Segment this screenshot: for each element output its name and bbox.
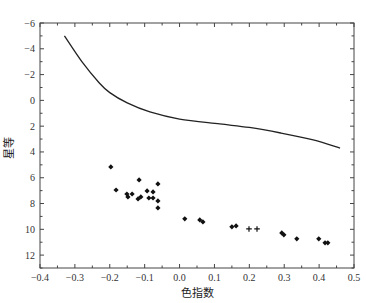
y-tick-label: 12 — [25, 250, 35, 261]
y-tick-label: 8 — [30, 198, 35, 209]
plot-frame — [40, 23, 354, 268]
star-point — [155, 205, 160, 210]
x-tick-label: 0.4 — [313, 272, 326, 283]
star-point — [108, 164, 113, 169]
y-axis-title: 星等 — [2, 137, 16, 159]
y-tick-label: 2 — [30, 121, 35, 132]
x-axis: −0.4−0.3−0.2−0.10.00.10.20.30.40.5 — [31, 23, 360, 283]
x-tick-label: −0.1 — [136, 272, 154, 283]
y-tick-label: −6 — [24, 18, 35, 29]
x-axis-title: 色指数 — [181, 286, 214, 300]
y-tick-label: 0 — [30, 95, 35, 106]
y-tick-label: 10 — [25, 224, 35, 235]
y-axis: −6−4−2024681012 — [24, 18, 354, 269]
star-point — [150, 195, 155, 200]
star-point — [325, 240, 330, 245]
chart: −0.4−0.3−0.2−0.10.00.10.20.30.40.5 −6−4−… — [0, 0, 366, 303]
y-tick-label: 4 — [30, 146, 35, 157]
star-point — [229, 224, 234, 229]
star-point — [145, 188, 150, 193]
x-tick-label: 0.0 — [173, 272, 186, 283]
plot-area — [40, 23, 354, 268]
star-point — [113, 187, 118, 192]
star-point — [130, 191, 135, 196]
star-point — [150, 189, 155, 194]
x-tick-label: 0.3 — [278, 272, 291, 283]
main-sequence-curve — [64, 36, 340, 148]
x-tick-label: 0.1 — [208, 272, 221, 283]
x-tick-label: −0.3 — [66, 272, 84, 283]
x-tick-label: 0.2 — [243, 272, 256, 283]
star-point — [294, 236, 299, 241]
star-point-cross — [254, 226, 260, 232]
star-point — [182, 216, 187, 221]
y-tick-label: 6 — [30, 172, 35, 183]
x-tick-label: 0.5 — [348, 272, 361, 283]
x-tick-label: −0.4 — [31, 272, 49, 283]
star-point — [136, 177, 141, 182]
star-point — [316, 236, 321, 241]
star-point — [155, 181, 160, 186]
star-point — [233, 223, 238, 228]
star-point — [155, 198, 160, 203]
y-tick-label: −4 — [24, 43, 35, 54]
x-tick-label: −0.2 — [101, 272, 119, 283]
y-tick-label: −2 — [24, 69, 35, 80]
star-point-cross — [246, 226, 252, 232]
